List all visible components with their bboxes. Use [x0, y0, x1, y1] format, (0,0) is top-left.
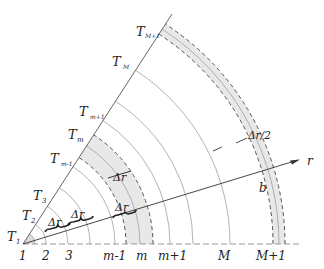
svg-text:3: 3 — [42, 197, 47, 205]
svg-text:M+1: M+1 — [144, 32, 160, 39]
half-delta-r-label: Δr/2 — [247, 129, 271, 141]
svg-text:M: M — [122, 63, 130, 70]
node-label-1: 1 — [19, 249, 27, 263]
r-arrow-icon — [290, 160, 300, 165]
boundary-label-T-m-plus-1: T m+1 — [79, 104, 105, 120]
r-axis-label: r — [307, 154, 314, 168]
node-label-3: 3 — [65, 249, 73, 263]
upper-boundary — [23, 14, 172, 244]
boundary-label-T3: T 3 — [33, 188, 47, 205]
boundary-label-T1: T 1 — [7, 229, 20, 246]
point-b-label: b — [259, 181, 267, 195]
svg-text:m+1: m+1 — [90, 113, 105, 120]
svg-text:m-1: m-1 — [61, 160, 73, 167]
node-label-M: M — [217, 249, 231, 263]
svg-text:T: T — [79, 104, 89, 119]
polar-grid-diagram: Δr Δr Δr Δr Δr/2 r b 1 2 3 m-1 m m+1 M M… — [0, 0, 324, 269]
delta-r-label-1: Δr — [47, 216, 62, 229]
svg-text:T: T — [50, 151, 60, 166]
shaded-band-m — [79, 135, 153, 244]
half-delta-r-tick — [213, 147, 222, 151]
delta-r-label-4: Δr — [112, 171, 127, 184]
boundary-label-T-M-plus-1: T M+1 — [136, 24, 160, 39]
half-delta-r-leader — [236, 138, 247, 143]
boundary-label-T2: T 2 — [22, 208, 36, 225]
node-label-m-plus-1: m+1 — [158, 249, 187, 263]
node-label-m-minus-1: m-1 — [103, 249, 126, 263]
boundary-label-T-m: T m — [68, 127, 84, 144]
svg-text:1: 1 — [16, 238, 20, 246]
node-label-m: m — [136, 249, 147, 263]
svg-text:m: m — [77, 136, 84, 144]
boundary-label-T-m-minus-1: T m-1 — [50, 151, 73, 167]
delta-r-label-2: Δr — [70, 208, 85, 221]
node-label-2: 2 — [41, 249, 50, 263]
boundary-label-T-M: T M — [112, 54, 130, 70]
node-label-M-plus-1: M+1 — [255, 249, 286, 263]
delta-r-label-3: Δr — [114, 201, 129, 214]
r-axis — [23, 160, 298, 244]
grid-arcs — [30, 29, 280, 244]
svg-text:2: 2 — [30, 217, 36, 225]
svg-text:T: T — [112, 54, 122, 69]
